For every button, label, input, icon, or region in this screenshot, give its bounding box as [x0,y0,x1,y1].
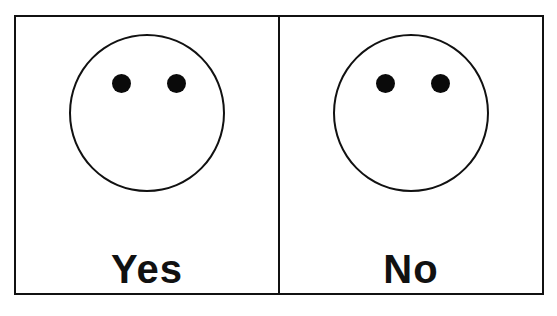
left-eye-icon [112,74,131,93]
yes-label: Yes [16,249,278,289]
face-icon [333,34,489,192]
choice-diagram: Yes No [14,15,544,295]
face-icon [69,34,225,192]
no-label: No [280,249,542,289]
right-eye-icon [431,74,450,93]
no-panel[interactable]: No [278,17,542,293]
yes-panel[interactable]: Yes [16,17,278,293]
left-eye-icon [376,74,395,93]
right-eye-icon [167,74,186,93]
